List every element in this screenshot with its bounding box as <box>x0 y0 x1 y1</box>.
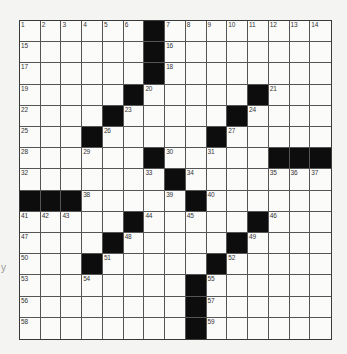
grid-cell[interactable] <box>124 148 145 169</box>
grid-cell[interactable] <box>82 169 103 190</box>
grid-cell[interactable] <box>248 318 269 339</box>
grid-cell[interactable]: 6 <box>124 21 145 42</box>
grid-cell[interactable]: 37 <box>310 169 331 190</box>
grid-cell[interactable] <box>82 297 103 318</box>
grid-cell[interactable] <box>269 297 290 318</box>
grid-cell[interactable] <box>248 63 269 84</box>
grid-cell[interactable]: 51 <box>103 254 124 275</box>
grid-cell[interactable] <box>103 148 124 169</box>
grid-cell[interactable] <box>186 148 207 169</box>
grid-cell[interactable] <box>207 63 228 84</box>
grid-cell[interactable] <box>248 148 269 169</box>
grid-cell[interactable] <box>290 254 311 275</box>
grid-cell[interactable]: 53 <box>20 275 41 296</box>
grid-cell[interactable] <box>124 169 145 190</box>
grid-cell[interactable] <box>290 127 311 148</box>
grid-cell[interactable] <box>165 212 186 233</box>
grid-cell[interactable] <box>82 212 103 233</box>
grid-cell[interactable] <box>269 106 290 127</box>
grid-cell[interactable]: 14 <box>310 21 331 42</box>
grid-cell[interactable]: 50 <box>20 254 41 275</box>
grid-cell[interactable]: 28 <box>20 148 41 169</box>
grid-cell[interactable] <box>144 233 165 254</box>
grid-cell[interactable] <box>144 106 165 127</box>
grid-cell[interactable] <box>82 63 103 84</box>
grid-cell[interactable] <box>248 297 269 318</box>
grid-cell[interactable] <box>41 106 62 127</box>
grid-cell[interactable] <box>165 275 186 296</box>
grid-cell[interactable] <box>103 85 124 106</box>
grid-cell[interactable] <box>290 318 311 339</box>
grid-cell[interactable] <box>124 318 145 339</box>
grid-cell[interactable] <box>144 275 165 296</box>
grid-cell[interactable] <box>310 254 331 275</box>
grid-cell[interactable]: 31 <box>207 148 228 169</box>
grid-cell[interactable] <box>248 127 269 148</box>
grid-cell[interactable]: 38 <box>82 191 103 212</box>
grid-cell[interactable] <box>165 254 186 275</box>
grid-cell[interactable]: 34 <box>186 169 207 190</box>
grid-cell[interactable] <box>207 233 228 254</box>
grid-cell[interactable] <box>165 106 186 127</box>
grid-cell[interactable]: 42 <box>41 212 62 233</box>
grid-cell[interactable] <box>269 233 290 254</box>
grid-cell[interactable]: 16 <box>165 42 186 63</box>
grid-cell[interactable] <box>41 148 62 169</box>
grid-cell[interactable] <box>144 297 165 318</box>
grid-cell[interactable]: 9 <box>207 21 228 42</box>
grid-cell[interactable] <box>61 85 82 106</box>
grid-cell[interactable] <box>82 318 103 339</box>
grid-cell[interactable] <box>103 275 124 296</box>
grid-cell[interactable] <box>61 318 82 339</box>
grid-cell[interactable]: 57 <box>207 297 228 318</box>
grid-cell[interactable] <box>310 212 331 233</box>
grid-cell[interactable]: 24 <box>248 106 269 127</box>
grid-cell[interactable]: 11 <box>248 21 269 42</box>
grid-cell[interactable] <box>248 42 269 63</box>
grid-cell[interactable] <box>227 169 248 190</box>
grid-cell[interactable] <box>61 148 82 169</box>
grid-cell[interactable] <box>124 127 145 148</box>
grid-cell[interactable] <box>103 318 124 339</box>
grid-cell[interactable]: 45 <box>186 212 207 233</box>
grid-cell[interactable]: 8 <box>186 21 207 42</box>
grid-cell[interactable] <box>207 42 228 63</box>
grid-cell[interactable]: 58 <box>20 318 41 339</box>
grid-cell[interactable] <box>310 63 331 84</box>
grid-cell[interactable] <box>290 63 311 84</box>
grid-cell[interactable] <box>61 254 82 275</box>
grid-cell[interactable] <box>41 275 62 296</box>
grid-cell[interactable] <box>82 233 103 254</box>
grid-cell[interactable] <box>165 318 186 339</box>
grid-cell[interactable] <box>248 275 269 296</box>
grid-cell[interactable] <box>144 318 165 339</box>
grid-cell[interactable]: 7 <box>165 21 186 42</box>
grid-cell[interactable]: 35 <box>269 169 290 190</box>
grid-cell[interactable] <box>310 42 331 63</box>
grid-cell[interactable] <box>61 275 82 296</box>
grid-cell[interactable] <box>124 297 145 318</box>
grid-cell[interactable]: 21 <box>269 85 290 106</box>
grid-cell[interactable] <box>61 297 82 318</box>
grid-cell[interactable] <box>227 148 248 169</box>
grid-cell[interactable] <box>310 106 331 127</box>
grid-cell[interactable] <box>61 42 82 63</box>
grid-cell[interactable]: 26 <box>103 127 124 148</box>
grid-cell[interactable]: 36 <box>290 169 311 190</box>
grid-cell[interactable] <box>41 127 62 148</box>
grid-cell[interactable]: 46 <box>269 212 290 233</box>
grid-cell[interactable] <box>248 254 269 275</box>
grid-cell[interactable] <box>103 191 124 212</box>
grid-cell[interactable] <box>103 169 124 190</box>
grid-cell[interactable] <box>41 63 62 84</box>
grid-cell[interactable] <box>165 233 186 254</box>
grid-cell[interactable] <box>124 42 145 63</box>
grid-cell[interactable] <box>61 169 82 190</box>
grid-cell[interactable] <box>186 106 207 127</box>
grid-cell[interactable] <box>103 212 124 233</box>
grid-cell[interactable] <box>290 42 311 63</box>
grid-cell[interactable]: 41 <box>20 212 41 233</box>
grid-cell[interactable]: 1 <box>20 21 41 42</box>
grid-cell[interactable]: 5 <box>103 21 124 42</box>
grid-cell[interactable] <box>269 254 290 275</box>
